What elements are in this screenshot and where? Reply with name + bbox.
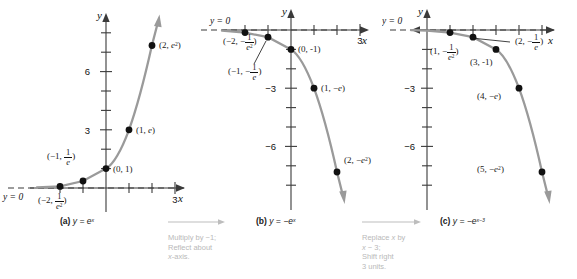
transition-b-to-c-line4: 3 units. — [362, 262, 424, 272]
transition-b-to-c: Replace x by x − 3; Shift right 3 units. — [362, 218, 424, 264]
y-axis-label-b: y — [281, 5, 287, 17]
data-point — [57, 183, 64, 190]
caption-c-tag: (c) — [440, 216, 450, 226]
data-point — [80, 178, 87, 185]
y-axis-label-a: y — [96, 9, 102, 21]
point-label-a-0: (−2, 1 e2) — [38, 192, 67, 210]
point-label-a-4: (2, e2) — [159, 40, 181, 50]
data-point — [539, 169, 546, 176]
panel-b: y x −3 −6 3 y = 0 (−2, − 1 e2) (−1, − 1 … — [196, 0, 386, 215]
x-tick-label-3-a: 3 — [172, 194, 177, 205]
figure-container: y x 3 6 3 y = 0 (−2, 1 e2) (−1, 1 e) (0,… — [0, 0, 577, 279]
y-tick-label-neg6-c: −6 — [404, 141, 415, 152]
caption-b-eq: y = −e — [269, 216, 293, 226]
point-label-b-3: (1, −e) — [321, 83, 345, 93]
data-point — [470, 34, 477, 41]
transition-arrow-b-to-c — [362, 218, 424, 226]
data-point — [334, 169, 341, 176]
y-axis-arrow-a — [102, 13, 109, 22]
y-tick-label-3-a: 3 — [85, 125, 90, 136]
y-tick-label-neg3-c: −3 — [404, 83, 415, 94]
curve-arrow-c — [544, 191, 551, 204]
caption-a-eq: y = e — [73, 216, 92, 226]
point-label-c-2: (3, -1) — [470, 57, 493, 67]
point-label-c-3: (4, −e) — [477, 91, 501, 101]
y-axis-label-c: y — [417, 5, 423, 17]
transition-b-to-c-line1: Replace x by — [362, 233, 424, 243]
x-axis-arrow-b — [360, 26, 369, 33]
data-point — [103, 165, 110, 172]
x-axis-arrow-a — [176, 184, 185, 191]
panel-c-graph: y x −3 −6 y = 0 — [382, 0, 577, 215]
caption-c: (c) y = −ex−3 — [440, 216, 485, 226]
data-point — [311, 85, 318, 92]
point-label-a-3: (1, e) — [136, 125, 155, 135]
point-label-b-2: (0, -1) — [298, 44, 321, 54]
y-tick-label-6-a: 6 — [85, 66, 90, 77]
panel-a-graph: y x 3 6 3 y = 0 — [0, 0, 195, 215]
caption-a-exp: x — [91, 217, 94, 223]
data-point — [447, 29, 454, 36]
point-label-c-0: (1, − 1 e2) — [430, 43, 459, 61]
caption-a-tag: (a) — [60, 216, 70, 226]
transition-a-to-b-line1: Multiply by −1; — [168, 233, 228, 243]
caption-a: (a) y = ex — [60, 216, 94, 226]
asymptote-label-c: y = 0 — [382, 16, 402, 26]
data-point — [126, 126, 133, 133]
point-label-a-1: (−1, 1 e) — [47, 148, 75, 166]
point-label-a-2: (0, 1) — [113, 164, 133, 174]
transition-b-to-c-line3: Shift right — [362, 252, 424, 262]
transition-b-to-c-line2: x − 3; — [362, 243, 424, 253]
point-label-b-4: (2, −e2) — [344, 155, 371, 165]
transition-a-to-b: Multiply by −1; Reflect about x-axis. — [168, 218, 228, 255]
caption-b-exp: x — [293, 217, 296, 223]
asymptote-label-a: y = 0 — [2, 192, 23, 202]
x-axis-label-a: x — [177, 192, 183, 204]
curve-arrow-b — [339, 191, 346, 204]
curve-exponential-b — [222, 31, 343, 196]
curve-arrow-a — [154, 15, 162, 28]
point-label-b-1: (−1, − 1 e) — [228, 63, 261, 81]
point-label-b-0: (−2, − 1 e2) — [223, 33, 257, 51]
y-tick-label-neg6-b: −6 — [265, 141, 276, 152]
data-point — [149, 42, 156, 49]
data-point — [493, 46, 500, 53]
y-axis-arrow-c — [423, 9, 430, 18]
transition-a-to-b-line3: x-axis. — [168, 252, 228, 262]
panel-c: y x −3 −6 y = 0 (1, − 1 e2) (2, − 1 e) (… — [382, 0, 577, 215]
x-axis-label-c: x — [547, 34, 553, 46]
data-point — [516, 85, 523, 92]
panel-a: y x 3 6 3 y = 0 (−2, 1 e2) (−1, 1 e) (0,… — [0, 0, 195, 215]
point-label-c-1: (2, − 1 e) — [515, 33, 543, 51]
asymptote-label-b: y = 0 — [209, 16, 230, 26]
point-label-c-4: (5, −e2) — [477, 164, 504, 174]
y-tick-label-neg3-b: −3 — [265, 83, 276, 94]
data-point — [288, 46, 295, 53]
data-point — [265, 34, 272, 41]
caption-c-exp: x−3 — [476, 217, 485, 223]
transition-arrow-a-to-b — [168, 218, 228, 226]
caption-b-tag: (b) — [256, 216, 267, 226]
x-axis-arrow-c — [546, 26, 555, 33]
transition-a-to-b-line2: Reflect about — [168, 243, 228, 253]
caption-b: (b) y = −ex — [256, 216, 296, 226]
y-axis-arrow-b — [287, 9, 294, 18]
x-tick-label-3-b: 3 — [357, 35, 362, 46]
caption-c-eq: y = −e — [453, 216, 477, 226]
